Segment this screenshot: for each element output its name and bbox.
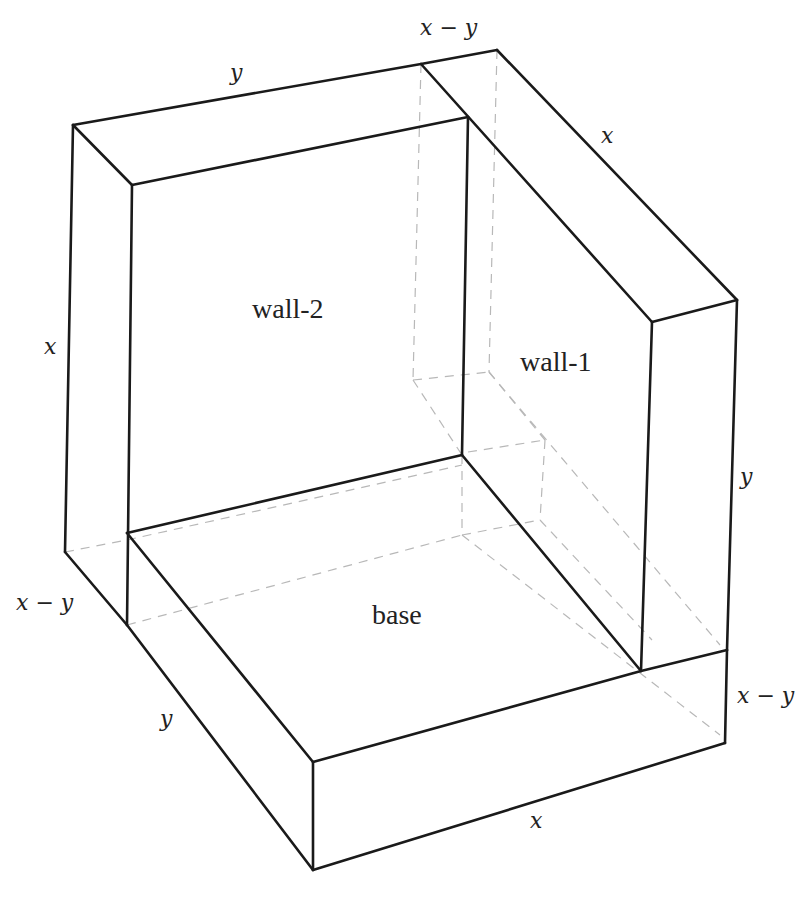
dim-label-right-x-minus-y: x − y [737,683,795,708]
dim-label-left-x-minus-y: x − y [16,590,74,615]
box-diagram: wall-2 wall-1 base y x − y x x y x − y y… [0,0,809,900]
dim-label-left-x: x [44,334,57,359]
face-label-base: base [372,599,422,630]
dim-label-top-back-y: y [229,60,243,85]
dim-label-front-bottom-x: x [530,808,543,833]
visible-edges [65,50,737,870]
dim-label-front-left-y: y [159,706,173,731]
dim-label-top-back-x-minus-y: x − y [420,15,478,40]
dim-label-top-right-x: x [601,123,614,148]
dim-label-right-y: y [739,464,753,489]
face-label-wall-2: wall-2 [252,293,324,324]
hidden-edges [65,50,720,735]
face-label-wall-1: wall-1 [520,346,592,377]
